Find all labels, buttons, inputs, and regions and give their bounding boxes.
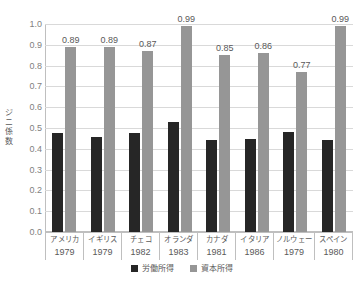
bar-value-label: 0.86 [254,42,272,51]
y-axis-tick-0.5: 0.5 [29,124,42,133]
y-axis-title-char-1: ニ [3,118,15,128]
x-axis-country-label: オランダ [164,234,193,246]
legend-item-労働所得[interactable]: 労働所得 [131,264,174,273]
bar-資本所得-アメリカ[interactable] [65,47,76,232]
bar-資本所得-チェコ[interactable] [142,51,153,232]
bar-group-ノルウェー: 0.77 [276,24,315,232]
bar-労働所得-チェコ[interactable] [129,133,140,232]
y-axis-tick-0.3: 0.3 [29,165,42,174]
x-axis-year-label: 1979 [92,246,112,258]
bar-value-label: 0.99 [177,15,195,24]
bar-pair: 0.99 [161,24,200,232]
x-axis-country-label: スペイン [319,234,348,246]
bar-value-label: 0.85 [216,44,234,53]
bar-労働所得-イギリス[interactable] [91,137,102,232]
x-axis-country-label: カナダ [205,234,227,246]
x-axis-country-label: イタリア [240,234,269,246]
bar-労働所得-スペイン[interactable] [322,140,333,232]
bar-wrapper [322,24,333,232]
bar-労働所得-オランダ[interactable] [168,122,179,232]
bar-value-label: 0.89 [100,36,118,45]
x-axis-year-label: 1979 [54,246,74,258]
x-axis-year-label: 1980 [323,246,343,258]
legend-swatch-icon [190,265,197,272]
bar-資本所得-スペイン[interactable] [335,26,346,232]
y-axis-tick-0.9: 0.9 [29,40,42,49]
y-axis-tick-0.8: 0.8 [29,61,42,70]
bar-労働所得-イタリア[interactable] [245,139,256,232]
bar-group-イギリス: 0.89 [84,24,123,232]
plot-area: 0.890.890.870.990.850.860.770.99 [45,24,353,232]
bar-資本所得-イタリア[interactable] [258,53,269,232]
legend-item-資本所得[interactable]: 資本所得 [190,264,233,273]
x-axis-year-label: 1986 [244,246,264,258]
bar-資本所得-イギリス[interactable] [104,47,115,232]
y-axis-tick-0.2: 0.2 [29,186,42,195]
x-axis-year-label: 1983 [168,246,188,258]
bar-wrapper: 0.86 [258,24,269,232]
x-axis-cell-ノルウェー: ノルウェー1979 [274,233,315,260]
bar-wrapper: 0.87 [142,24,153,232]
bar-wrapper: 0.89 [65,24,76,232]
bar-wrapper: 0.99 [335,24,346,232]
bar-労働所得-ノルウェー[interactable] [283,132,294,232]
bar-wrapper [206,24,217,232]
bar-労働所得-アメリカ[interactable] [52,133,63,232]
x-axis-country-label: イギリス [88,234,117,246]
x-axis-year-label: 1981 [206,246,226,258]
bar-資本所得-オランダ[interactable] [181,26,192,232]
bar-wrapper [91,24,102,232]
y-axis-tick-0.0: 0.0 [29,228,42,237]
bar-資本所得-カナダ[interactable] [219,55,230,232]
bar-group-カナダ: 0.85 [199,24,238,232]
y-axis-title-char-2: 係 [3,127,15,137]
x-axis-country-label: ノルウェー [276,234,313,246]
y-axis-title-char-0: ジ [3,108,15,118]
bar-value-label: 0.89 [62,36,80,45]
bar-value-label: 0.77 [293,61,311,70]
y-axis-title-char-3: 数 [3,137,15,147]
bar-pair: 0.86 [238,24,277,232]
bar-group-オランダ: 0.99 [161,24,200,232]
bar-group-アメリカ: 0.89 [45,24,84,232]
legend-swatch-icon [131,265,138,272]
x-axis-cell-スペイン: スペイン1980 [315,233,353,260]
bar-wrapper: 0.99 [181,24,192,232]
x-axis-cell-アメリカ: アメリカ1979 [45,233,84,260]
bar-労働所得-カナダ[interactable] [206,140,217,232]
x-axis-category-table: アメリカ1979イギリス1979チェコ1982オランダ1983カナダ1981イタ… [45,232,353,260]
bar-pair: 0.77 [276,24,315,232]
bar-資本所得-ノルウェー[interactable] [296,72,307,232]
x-axis-year-label: 1979 [284,246,304,258]
y-axis-tick-0.4: 0.4 [29,144,42,153]
bar-group-イタリア: 0.86 [238,24,277,232]
x-axis-cell-カナダ: カナダ1981 [198,233,236,260]
legend-label: 労働所得 [142,264,174,273]
y-axis-tick-0.1: 0.1 [29,207,42,216]
y-axis-tick-labels: 1.00.90.80.70.60.50.40.30.20.10.0 [16,0,42,288]
bar-wrapper: 0.89 [104,24,115,232]
bar-wrapper [129,24,140,232]
x-axis-country-label: チェコ [129,234,151,246]
bar-group-スペイン: 0.99 [315,24,354,232]
bar-wrapper [52,24,63,232]
bar-groups: 0.890.890.870.990.850.860.770.99 [45,24,353,232]
bar-value-label: 0.87 [139,40,157,49]
bar-wrapper [283,24,294,232]
bar-wrapper: 0.77 [296,24,307,232]
bar-wrapper: 0.85 [219,24,230,232]
bar-pair: 0.99 [315,24,354,232]
y-axis-tick-0.6: 0.6 [29,103,42,112]
bar-pair: 0.87 [122,24,161,232]
x-axis-country-label: アメリカ [50,234,79,246]
x-axis-cell-イタリア: イタリア1986 [236,233,274,260]
y-axis-tick-0.7: 0.7 [29,82,42,91]
y-axis-title: ジ ニ 係 数 [3,108,15,146]
x-axis-cell-オランダ: オランダ1983 [160,233,198,260]
legend: 労働所得資本所得 [0,264,363,273]
x-axis-year-label: 1982 [130,246,150,258]
bar-wrapper [245,24,256,232]
legend-label: 資本所得 [201,264,233,273]
bar-pair: 0.89 [45,24,84,232]
gini-coefficient-bar-chart: ジ ニ 係 数 1.00.90.80.70.60.50.40.30.20.10.… [0,0,363,288]
